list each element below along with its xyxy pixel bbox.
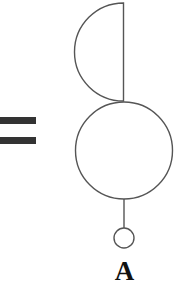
shape-label: A	[115, 256, 135, 286]
large-circle-shape	[76, 102, 173, 199]
equals-bar-bottom	[0, 137, 36, 144]
diagram-canvas: A	[0, 0, 182, 291]
small-circle-shape	[114, 228, 134, 248]
equals-sign	[0, 117, 36, 144]
semicircle-shape	[75, 3, 124, 101]
equals-bar-top	[0, 117, 36, 124]
